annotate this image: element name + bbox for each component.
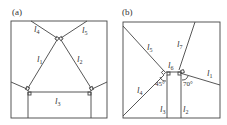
segment-a-right-side <box>92 82 107 89</box>
label-a-l1: l1 <box>37 54 43 65</box>
label-b-l5: l5 <box>147 42 153 53</box>
angle-label-45: 45° <box>155 80 165 88</box>
label-b-l6: l6 <box>168 60 174 71</box>
node-b-center-left <box>167 72 170 75</box>
diagram-canvas: (a) l4 l5 l1 l2 l3 (b) <box>0 0 227 125</box>
node-b-right <box>181 70 185 74</box>
panel-a-label: (a) <box>12 7 22 17</box>
label-a-l5: l5 <box>82 25 88 36</box>
label-b-l4: l4 <box>137 85 143 96</box>
panel-a: (a) l4 l5 l1 l2 l3 <box>11 7 107 118</box>
panel-b: (b) l5 l7 l6 l1 l4 l3 l2 45° 70° <box>122 7 220 118</box>
label-b-l7: l7 <box>177 39 183 50</box>
label-b-l3: l3 <box>160 104 166 115</box>
label-a-l3: l3 <box>55 96 61 107</box>
panel-b-label: (b) <box>122 7 133 17</box>
label-b-l1: l1 <box>207 68 213 79</box>
node-b-center-right <box>178 72 181 75</box>
segment-a-left-side <box>11 82 27 89</box>
label-b-l2: l2 <box>183 104 189 115</box>
node-b-left <box>161 70 165 74</box>
angle-label-70: 70° <box>183 80 193 88</box>
segment-a-l2 <box>61 40 91 88</box>
label-a-l2: l2 <box>77 54 83 65</box>
segment-b-l5 <box>123 26 164 71</box>
